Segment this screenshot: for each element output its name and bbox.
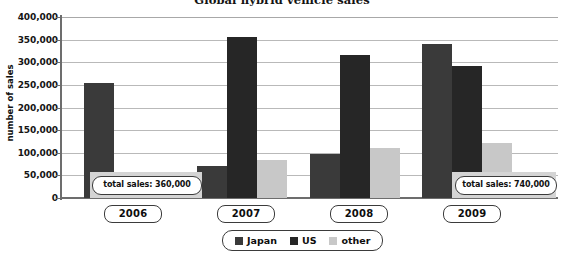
- bar-group-2008: [310, 17, 400, 198]
- total-sales-callout-2009: total sales: 740,000: [455, 176, 557, 195]
- x-axis-label-2009[interactable]: 2009: [443, 205, 501, 223]
- legend-item-other[interactable]: other: [329, 235, 370, 246]
- legend-label: US: [302, 235, 317, 246]
- y-axis-tick-label: 50,000: [2, 170, 58, 180]
- bar-japan-2008[interactable]: [310, 154, 340, 198]
- y-axis-tick-label: 400,000: [2, 12, 58, 22]
- legend-swatch-icon-other: [329, 237, 337, 245]
- x-axis-label-2007[interactable]: 2007: [217, 205, 275, 223]
- y-axis-tick-label: 250,000: [2, 80, 58, 90]
- bar-us-2007[interactable]: [227, 37, 257, 198]
- plot-area: [62, 17, 558, 198]
- y-axis-tick-label: 150,000: [2, 125, 58, 135]
- total-sales-callout-2006: total sales: 360,000: [92, 176, 202, 195]
- chart-legend: JapanUSother: [222, 230, 383, 251]
- bar-group-2007: [197, 17, 287, 198]
- x-axis-label-2008[interactable]: 2008: [330, 205, 388, 223]
- bar-japan-2009[interactable]: [422, 44, 452, 198]
- y-axis-tick-label: 300,000: [2, 57, 58, 67]
- x-axis-label-2006[interactable]: 2006: [104, 205, 162, 223]
- bar-us-2008[interactable]: [340, 55, 370, 198]
- bar-group-2009: [422, 17, 512, 198]
- bar-other-2007[interactable]: [257, 160, 287, 198]
- y-axis-tick-label: 200,000: [2, 103, 58, 113]
- y-axis-tick-label: 350,000: [2, 35, 58, 45]
- legend-label: Japan: [247, 235, 277, 246]
- y-axis-tick-label: 0: [2, 193, 58, 203]
- y-axis-tick-labels: 050,000100,000150,000200,000250,000300,0…: [0, 0, 58, 255]
- y-axis-tick-label: 100,000: [2, 148, 58, 158]
- legend-swatch-icon-japan: [235, 237, 243, 245]
- legend-swatch-icon-us: [290, 237, 298, 245]
- chart-title: Global hybrid vehicle sales: [0, 0, 564, 7]
- legend-item-japan[interactable]: Japan: [235, 235, 277, 246]
- bar-other-2008[interactable]: [370, 148, 400, 198]
- legend-label: other: [341, 235, 370, 246]
- bar-group-2006: [84, 17, 174, 198]
- legend-item-us[interactable]: US: [290, 235, 317, 246]
